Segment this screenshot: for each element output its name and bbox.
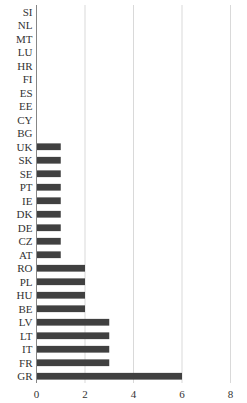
- bar-ie: [37, 197, 61, 204]
- bar-gr: [37, 373, 183, 380]
- bars: [37, 143, 183, 379]
- bar-be: [37, 305, 86, 312]
- y-category-label: BG: [17, 127, 32, 139]
- bar-lt: [37, 332, 110, 339]
- bar-cz: [37, 238, 61, 245]
- y-category-label: PT: [20, 181, 33, 193]
- x-tick-label: 4: [131, 388, 137, 400]
- y-category-label: ES: [20, 87, 33, 99]
- y-category-label: SE: [20, 168, 33, 180]
- y-category-label: SK: [18, 154, 32, 166]
- bar-dk: [37, 211, 61, 218]
- y-category-label: RO: [17, 262, 32, 274]
- y-category-label: CY: [17, 114, 32, 126]
- y-category-label: MT: [16, 33, 33, 45]
- bar-pl: [37, 278, 86, 285]
- grid-lines: [85, 5, 231, 383]
- x-tick-label: 0: [34, 388, 40, 400]
- y-category-label: LV: [19, 316, 33, 328]
- y-category-label: LT: [20, 330, 33, 342]
- y-category-label: PL: [20, 276, 33, 288]
- y-category-label: HR: [17, 60, 33, 72]
- x-tick-label: 8: [228, 388, 234, 400]
- y-category-label: BE: [18, 303, 32, 315]
- x-tick-label: 2: [82, 388, 88, 400]
- bar-ro: [37, 265, 86, 272]
- bar-uk: [37, 143, 61, 150]
- y-category-label: GR: [17, 370, 33, 382]
- y-category-label: DE: [18, 222, 33, 234]
- y-category-label: EE: [19, 100, 33, 112]
- y-category-label: CZ: [18, 235, 32, 247]
- x-tick-label: 6: [179, 388, 185, 400]
- bar-hu: [37, 292, 86, 299]
- y-category-label: FI: [23, 73, 33, 85]
- bar-pt: [37, 184, 61, 191]
- y-category-label: LU: [18, 46, 33, 58]
- y-category-label: IT: [22, 343, 33, 355]
- bar-de: [37, 224, 61, 231]
- y-category-label: AT: [19, 249, 33, 261]
- bar-it: [37, 346, 110, 353]
- bar-chart: SINLMTLUHRFIESEECYBGUKSKSEPTIEDKDECZATRO…: [0, 0, 247, 403]
- y-category-label: DK: [17, 208, 33, 220]
- bar-sk: [37, 157, 61, 164]
- y-category-label: SI: [23, 6, 33, 18]
- bar-at: [37, 251, 61, 258]
- y-category-label: UK: [17, 141, 33, 153]
- y-category-label: IE: [22, 195, 33, 207]
- y-category-label: FR: [19, 357, 33, 369]
- x-axis-labels: 02468: [34, 388, 234, 400]
- y-axis-labels: SINLMTLUHRFIESEECYBGUKSKSEPTIEDKDECZATRO…: [16, 6, 33, 383]
- bar-lv: [37, 319, 110, 326]
- bar-fr: [37, 359, 110, 366]
- bar-se: [37, 170, 61, 177]
- y-category-label: NL: [18, 19, 33, 31]
- y-category-label: HU: [17, 289, 33, 301]
